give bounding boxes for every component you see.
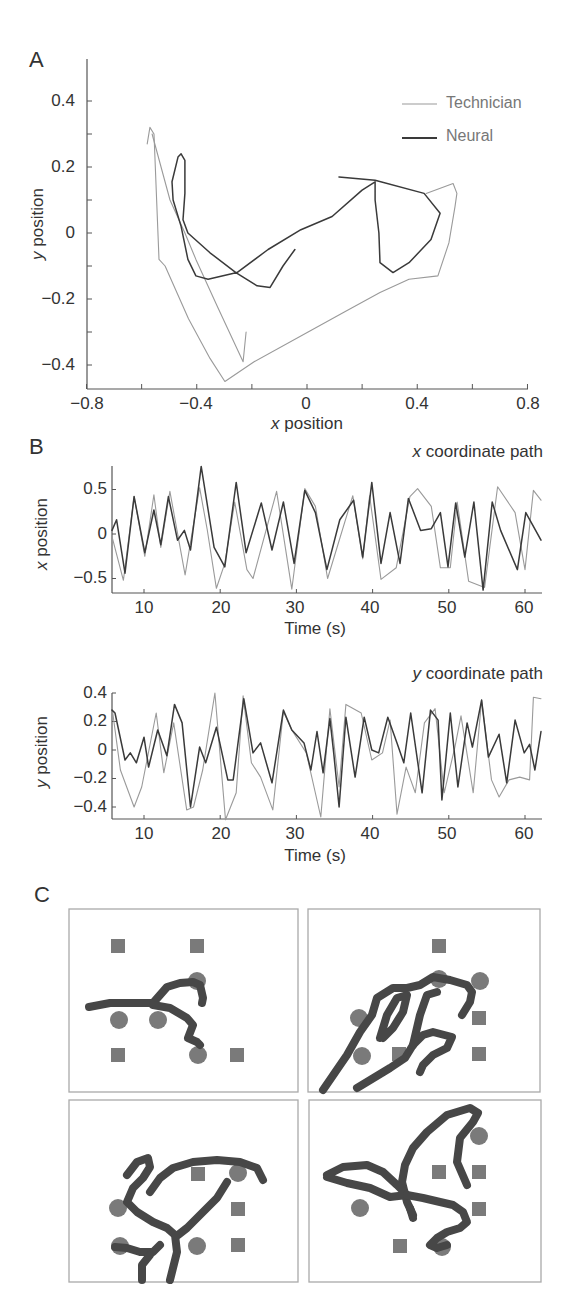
panel-b-bottom-xlabel: Time (s) bbox=[284, 846, 346, 866]
ytick-label: 0 bbox=[66, 223, 75, 243]
technician-trajectory bbox=[152, 134, 246, 362]
target-square bbox=[190, 939, 204, 953]
xtick-label: 60 bbox=[515, 598, 534, 618]
target-circle bbox=[110, 1011, 128, 1029]
technician-timeseries bbox=[112, 693, 541, 820]
xtick-label: 60 bbox=[515, 824, 534, 844]
cursor-trace bbox=[410, 1208, 413, 1218]
xtick-label: 0 bbox=[301, 394, 310, 414]
xtick-label: −0.4 bbox=[179, 394, 213, 414]
xtick-label: 30 bbox=[286, 598, 305, 618]
subplot-box bbox=[309, 1100, 541, 1282]
target-square bbox=[191, 1167, 205, 1181]
ytick-label: −0.4 bbox=[73, 797, 107, 817]
xtick-label: 50 bbox=[438, 598, 457, 618]
xtick-label: 10 bbox=[135, 824, 154, 844]
ytick-label: −0.2 bbox=[41, 289, 75, 309]
target-square bbox=[432, 939, 446, 953]
xtick-label: 20 bbox=[212, 598, 231, 618]
panel-b-top-title: x coordinate path bbox=[413, 442, 543, 462]
ytick-label: 0 bbox=[98, 524, 107, 544]
target-square bbox=[231, 1238, 245, 1252]
target-circle bbox=[470, 1127, 488, 1145]
panel-a-xlabel: x position bbox=[271, 414, 343, 434]
ytick-label: −0.4 bbox=[41, 355, 75, 375]
target-circle bbox=[353, 1047, 371, 1065]
ytick-label: 0.5 bbox=[83, 479, 107, 499]
xtick-label: 40 bbox=[361, 598, 380, 618]
xtick-label: −0.8 bbox=[70, 394, 104, 414]
target-square bbox=[472, 1011, 486, 1025]
xtick-label: 30 bbox=[286, 824, 305, 844]
panel-a-ylabel: y position bbox=[28, 188, 48, 260]
target-square bbox=[472, 1047, 486, 1061]
target-square bbox=[472, 1202, 486, 1216]
panel-b-bottom-ylabel: y position bbox=[32, 716, 52, 788]
subplot-box bbox=[69, 1100, 298, 1282]
panel-b-bottom-title: y coordinate path bbox=[413, 664, 543, 684]
panel-b-top-ylabel: x position bbox=[32, 498, 52, 570]
legend-technician-label: Technician bbox=[446, 94, 522, 112]
xtick-label: 50 bbox=[438, 824, 457, 844]
panel-b-top-xlabel: Time (s) bbox=[284, 619, 346, 639]
xtick-label: 0.4 bbox=[405, 394, 429, 414]
target-circle bbox=[188, 1237, 206, 1255]
target-circle bbox=[471, 972, 489, 990]
target-square bbox=[432, 1165, 446, 1179]
ytick-label: 0.2 bbox=[51, 157, 75, 177]
ytick-label: −0.5 bbox=[73, 568, 107, 588]
ytick-label: 0.4 bbox=[51, 91, 75, 111]
figure-canvas bbox=[0, 0, 571, 1311]
target-circle bbox=[351, 1199, 369, 1217]
target-square bbox=[230, 1048, 244, 1062]
xtick-label: 10 bbox=[135, 598, 154, 618]
target-square bbox=[231, 1202, 245, 1216]
ytick-label: 0.2 bbox=[83, 711, 107, 731]
target-square bbox=[111, 939, 125, 953]
ytick-label: −0.2 bbox=[73, 768, 107, 788]
xtick-label: 40 bbox=[361, 824, 380, 844]
target-square bbox=[472, 1165, 486, 1179]
ytick-label: 0.4 bbox=[83, 683, 107, 703]
target-circle bbox=[189, 1046, 207, 1064]
target-circle bbox=[149, 1011, 167, 1029]
legend-neural-label: Neural bbox=[446, 127, 493, 145]
neural-trajectory bbox=[172, 154, 440, 288]
ytick-label: 0 bbox=[98, 740, 107, 760]
target-square bbox=[393, 1239, 407, 1253]
target-square bbox=[111, 1048, 125, 1062]
xtick-label: 0.8 bbox=[516, 394, 540, 414]
xtick-label: 20 bbox=[212, 824, 231, 844]
